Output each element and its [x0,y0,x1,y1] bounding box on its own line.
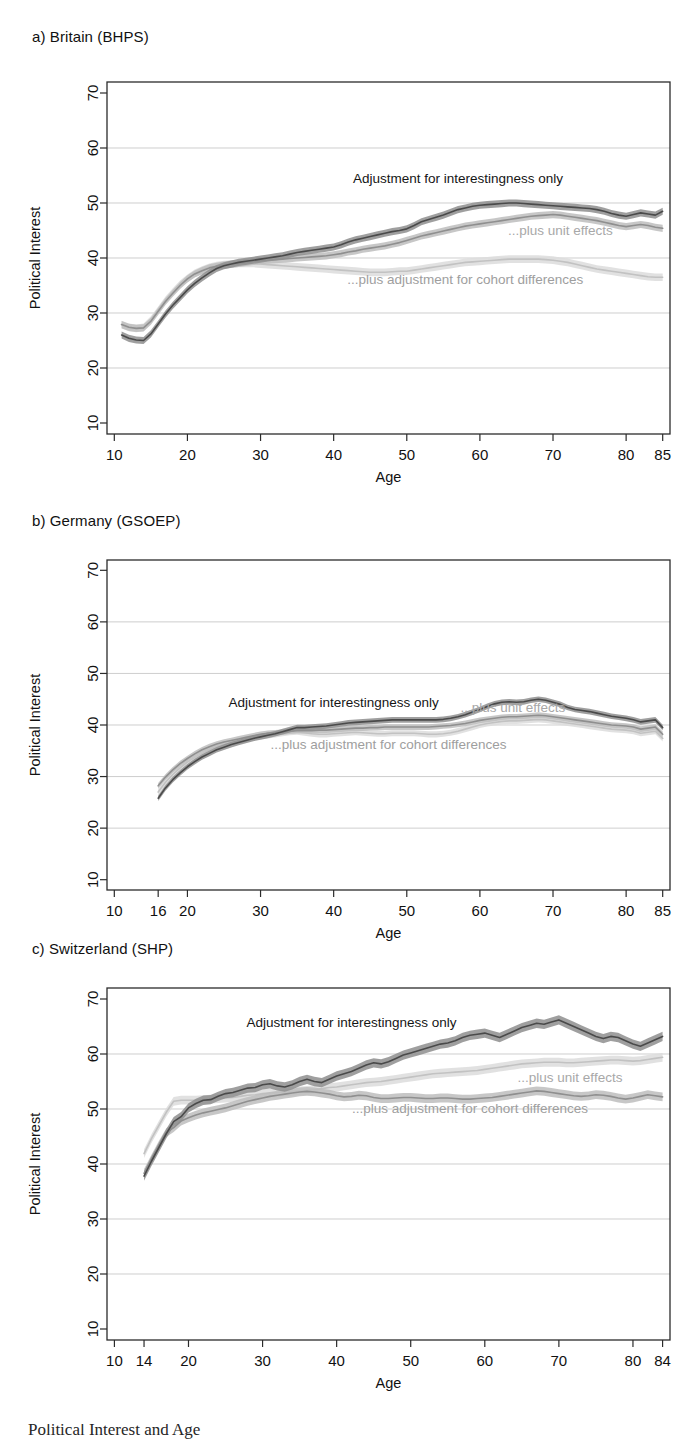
x-tick-label: 50 [398,902,415,919]
y-tick-label: 70 [84,991,101,1008]
y-tick-label: 70 [84,85,101,102]
y-tick-label: 50 [84,195,101,212]
x-tick-label: 60 [472,902,489,919]
x-tick-label: 50 [398,446,415,463]
x-tick-label: 40 [325,446,342,463]
y-tick-label: 20 [84,360,101,377]
y-tick-label: 20 [84,820,101,837]
figure-root: a) Britain (BHPS)10203040506070Political… [0,0,693,1446]
plot-area-b: 10203040506070Political Interest10162030… [0,550,693,952]
annotation-light: ...plus adjustment for cohort difference… [352,1101,588,1116]
x-tick-label: 20 [179,902,196,919]
x-tick-label: 10 [106,1352,123,1369]
panel-title-a: a) Britain (BHPS) [32,28,149,45]
y-tick-label: 20 [84,1266,101,1283]
y-axis-label: Political Interest [27,207,43,309]
x-tick-label: 10 [106,446,123,463]
x-tick-label: 30 [252,446,269,463]
y-tick-label: 50 [84,1101,101,1118]
annotation-light: ...plus adjustment for cohort difference… [270,737,506,752]
y-tick-label: 40 [84,1156,101,1173]
panel-title-c: c) Switzerland (SHP) [32,940,173,957]
y-tick-label: 10 [84,1321,101,1338]
y-axis-b: 10203040506070 [84,562,107,888]
y-tick-label: 70 [84,562,101,579]
gridlines-c [107,1054,670,1274]
y-tick-label: 40 [84,250,101,267]
x-tick-label: 40 [325,902,342,919]
annotation-mid: ...plus unit effects [518,1070,623,1085]
y-axis-label: Political Interest [27,1113,43,1215]
x-tick-label: 30 [254,1352,271,1369]
x-tick-label: 70 [551,1352,568,1369]
y-tick-label: 30 [84,305,101,322]
x-axis-a: 102030405060708085 [106,434,671,463]
y-tick-label: 40 [84,717,101,734]
x-axis-label: Age [376,925,402,941]
annotation-dark: Adjustment for interestingness only [229,695,439,710]
x-tick-label: 20 [179,446,196,463]
x-tick-label: 40 [328,1352,345,1369]
x-tick-label: 20 [180,1352,197,1369]
x-tick-label: 80 [618,902,635,919]
x-tick-label: 80 [618,446,635,463]
plot-area-a: 10203040506070Political Interest10203040… [0,72,693,496]
figure-caption-zone: Political Interest and Age [0,1424,693,1446]
x-tick-label: 70 [545,446,562,463]
x-tick-label: 70 [545,902,562,919]
x-tick-label: 14 [136,1352,153,1369]
y-tick-label: 50 [84,665,101,682]
x-tick-label: 50 [402,1352,419,1369]
x-axis-b: 10162030405060708085 [106,890,671,919]
x-tick-label: 85 [654,902,671,919]
plot-area-c: 10203040506070Political Interest10142030… [0,978,693,1402]
x-tick-label: 10 [106,902,123,919]
panel-title-b: b) Germany (GSOEP) [32,512,181,529]
annotation-dark: Adjustment for interestingness only [246,1015,456,1030]
annotation-light: ...plus adjustment for cohort difference… [347,272,583,287]
y-tick-label: 30 [84,768,101,785]
x-tick-label: 85 [654,446,671,463]
y-axis-label: Political Interest [27,674,43,776]
y-axis-a: 10203040506070 [84,85,107,432]
y-tick-label: 10 [84,871,101,888]
y-tick-label: 60 [84,1046,101,1063]
x-tick-label: 84 [654,1352,671,1369]
annotation-mid: ...plus unit effects [460,700,565,715]
x-axis-c: 10142030405060708084 [106,1340,671,1369]
y-tick-label: 60 [84,140,101,157]
x-tick-label: 60 [476,1352,493,1369]
series-group-c [144,1015,663,1181]
x-axis-label: Age [376,1375,402,1391]
y-tick-label: 60 [84,614,101,631]
y-axis-c: 10203040506070 [84,991,107,1338]
x-tick-label: 60 [472,446,489,463]
y-tick-label: 10 [84,415,101,432]
y-tick-label: 30 [84,1211,101,1228]
x-axis-label: Age [376,469,402,485]
x-tick-label: 16 [150,902,167,919]
figure-caption: Political Interest and Age [28,1424,200,1440]
annotation-mid: ...plus unit effects [508,223,613,238]
x-tick-label: 30 [252,902,269,919]
x-tick-label: 80 [625,1352,642,1369]
annotation-dark: Adjustment for interestingness only [353,171,563,186]
